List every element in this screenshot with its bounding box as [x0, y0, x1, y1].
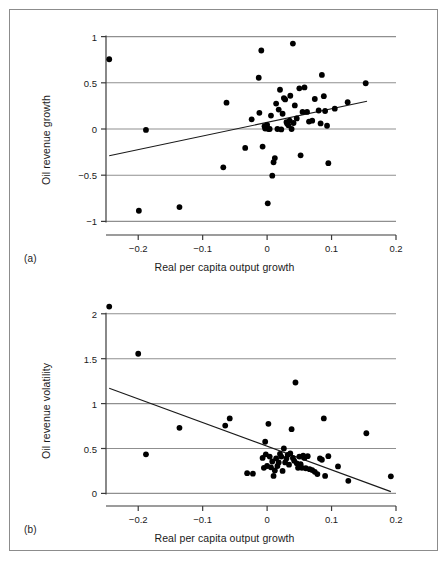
- data-point: [268, 113, 274, 119]
- x-tick-label: 0.2: [389, 243, 402, 254]
- data-point: [325, 453, 331, 459]
- data-point: [143, 451, 149, 457]
- data-point: [267, 126, 273, 132]
- y-tick-label: 1: [10, 31, 97, 42]
- data-point: [289, 126, 295, 132]
- data-point: [287, 93, 293, 99]
- data-point: [278, 454, 284, 460]
- data-point: [271, 473, 277, 479]
- data-point: [269, 173, 275, 179]
- data-point: [363, 430, 369, 436]
- data-point: [276, 460, 282, 466]
- data-point: [321, 93, 327, 99]
- data-point: [345, 99, 351, 105]
- chart-panel-b: Oil revenue volatility Real per capita o…: [10, 281, 439, 552]
- panel-label-a: (a): [24, 253, 37, 264]
- scatter-plot-b: [10, 281, 439, 552]
- data-point: [177, 204, 183, 210]
- data-point: [296, 85, 302, 91]
- data-point: [305, 453, 311, 459]
- data-point: [265, 200, 271, 206]
- data-point: [319, 457, 325, 463]
- data-point: [260, 144, 266, 150]
- data-point: [304, 109, 310, 115]
- data-point: [293, 380, 299, 386]
- y-tick-label: −1: [10, 216, 97, 227]
- y-tick-label: 0.5: [10, 443, 97, 454]
- y-tick-label: 0: [10, 124, 97, 135]
- data-point: [294, 115, 300, 121]
- x-axis-title-b: Real per capita output growth: [10, 532, 439, 544]
- data-point: [289, 426, 295, 432]
- data-point: [256, 110, 262, 116]
- data-point: [335, 464, 341, 470]
- data-point: [242, 145, 248, 151]
- data-point: [302, 85, 308, 91]
- data-point: [312, 96, 318, 102]
- data-point: [278, 127, 284, 133]
- x-axis-title-a: Real per capita output growth: [10, 261, 439, 273]
- x-tick-label: 0: [264, 243, 269, 254]
- data-point: [106, 56, 112, 62]
- data-point: [262, 439, 268, 445]
- data-point: [325, 160, 331, 166]
- data-point: [256, 75, 262, 81]
- data-point: [322, 473, 328, 479]
- x-tick-label: −0.1: [193, 243, 212, 254]
- data-point: [244, 470, 250, 476]
- data-point: [277, 87, 283, 93]
- data-point: [266, 421, 272, 427]
- data-point: [286, 462, 292, 468]
- data-point: [222, 423, 228, 429]
- data-point: [319, 72, 325, 78]
- x-tick-label: 0: [264, 514, 269, 525]
- data-point: [321, 416, 327, 422]
- data-point: [345, 478, 351, 484]
- scatter-plot-a: [10, 10, 439, 281]
- y-tick-label: 1.5: [10, 353, 97, 364]
- data-point: [324, 123, 330, 129]
- data-point: [280, 111, 286, 117]
- x-tick-label: −0.2: [129, 243, 148, 254]
- data-point: [272, 155, 278, 161]
- y-tick-label: 0: [10, 488, 97, 499]
- data-point: [267, 454, 273, 460]
- data-point: [282, 97, 288, 103]
- data-point: [258, 48, 264, 54]
- data-point: [314, 471, 320, 477]
- x-tick-label: −0.1: [193, 514, 212, 525]
- x-tick-label: 0.1: [325, 514, 338, 525]
- data-point: [281, 446, 287, 452]
- figure-frame: Oil revenue growth Real per capita outpu…: [9, 9, 438, 551]
- data-point: [220, 164, 226, 170]
- data-point: [298, 152, 304, 158]
- panel-label-b: (b): [24, 524, 37, 535]
- y-tick-label: 0.5: [10, 77, 97, 88]
- data-point: [292, 103, 298, 109]
- x-tick-label: −0.2: [129, 514, 148, 525]
- y-tick-label: 2: [10, 308, 97, 319]
- data-point: [136, 208, 142, 214]
- data-point: [363, 80, 369, 86]
- data-point: [332, 106, 338, 112]
- data-point: [177, 425, 183, 431]
- data-point: [388, 473, 394, 479]
- data-point: [309, 118, 315, 124]
- data-point: [316, 108, 322, 114]
- data-point: [322, 108, 328, 114]
- x-tick-label: 0.1: [325, 243, 338, 254]
- y-tick-label: 1: [10, 398, 97, 409]
- data-point: [224, 100, 230, 106]
- data-point: [227, 416, 233, 422]
- data-point: [280, 468, 286, 474]
- data-point: [250, 471, 256, 477]
- data-point: [143, 127, 149, 133]
- x-tick-label: 0.2: [389, 514, 402, 525]
- y-tick-label: −0.5: [10, 170, 97, 181]
- data-point: [290, 41, 296, 47]
- data-point: [135, 351, 141, 357]
- data-point: [273, 101, 279, 107]
- data-point: [106, 304, 112, 310]
- data-point: [318, 121, 324, 127]
- data-point: [249, 116, 255, 122]
